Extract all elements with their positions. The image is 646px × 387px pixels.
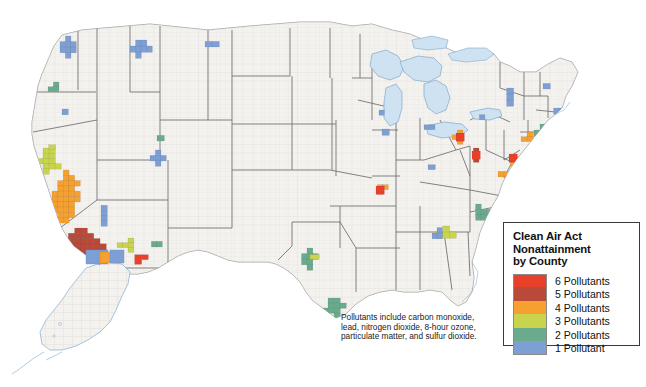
county-cell: [155, 150, 161, 156]
county-cell: [69, 175, 75, 181]
map-caption: Pollutants include carbon monoxide, lead…: [341, 313, 506, 342]
county-cell: [136, 40, 142, 46]
legend-row: 6 Pollutants: [513, 274, 639, 288]
county-cell: [443, 232, 450, 238]
county-cell: [147, 46, 153, 52]
county-cell: [65, 36, 71, 42]
county-cell: [62, 244, 69, 250]
county-cell: [68, 244, 75, 250]
region-cluster: [509, 154, 517, 162]
county-cell: [101, 221, 107, 227]
legend-row: 4 Pollutants: [513, 301, 639, 315]
region-cluster: [472, 151, 480, 159]
county-cell: [69, 207, 75, 213]
region-cluster: [554, 108, 565, 120]
county-cell: [68, 233, 75, 239]
county-cell: [429, 125, 435, 130]
county-cell: [141, 40, 147, 46]
county-cell: [93, 244, 100, 250]
county-cell: [63, 202, 69, 208]
county-cell: [128, 243, 134, 248]
county-cell: [302, 254, 308, 260]
region-cluster: [101, 205, 107, 226]
county-cell: [49, 158, 55, 164]
legend-label: 5 Pollutants: [555, 288, 610, 300]
legend-row: 3 Pollutants: [513, 314, 639, 328]
county-cell: [135, 259, 142, 264]
county-cell: [322, 308, 328, 313]
county-cell: [69, 186, 75, 192]
legend-row: 5 Pollutants: [513, 287, 639, 301]
legend-label: 4 Pollutants: [555, 302, 610, 314]
legend-swatch-1: [513, 341, 547, 355]
county-cell: [521, 137, 527, 142]
county-cell: [554, 108, 560, 114]
county-cell: [340, 303, 346, 308]
county-cell: [75, 260, 82, 266]
county-cell: [43, 158, 49, 164]
region-cluster: [205, 41, 219, 47]
county-cell: [334, 298, 340, 303]
county-cell: [136, 52, 142, 58]
county-cell: [75, 233, 82, 239]
county-cell: [65, 53, 71, 59]
county-cell: [456, 133, 464, 141]
county-cell: [476, 215, 482, 221]
county-cell: [58, 191, 64, 197]
county-cell: [328, 303, 334, 308]
county-cell: [527, 132, 533, 137]
legend-panel: Clean Air Act Nonattainment by County 6 …: [503, 222, 640, 346]
county-cell: [123, 243, 129, 248]
region-cluster: [376, 186, 384, 194]
county-cell: [75, 249, 82, 255]
county-cell: [58, 212, 64, 218]
county-cell: [63, 191, 69, 197]
county-cell: [379, 110, 384, 115]
region-cluster: [536, 138, 553, 146]
county-cell: [540, 130, 546, 136]
county-cell: [74, 181, 80, 187]
county-cell: [328, 298, 334, 303]
county-cell: [157, 241, 163, 247]
county-cell: [205, 41, 212, 47]
alaska-island-2: [53, 335, 55, 337]
county-cell: [87, 244, 94, 250]
legend-label: 6 Pollutants: [555, 275, 610, 287]
county-cell: [212, 41, 219, 47]
legend-label: 3 Pollutants: [555, 315, 610, 327]
county-cell: [443, 226, 450, 232]
county-cell: [60, 42, 66, 48]
county-cell: [69, 181, 75, 187]
county-cell: [128, 247, 134, 252]
county-cell: [68, 260, 75, 266]
legend-row: 2 Pollutants: [513, 328, 639, 342]
legend-swatch-6: [513, 274, 547, 288]
county-cell: [498, 171, 504, 177]
county-cell: [472, 151, 480, 159]
county-cell: [476, 209, 482, 215]
county-cell: [157, 135, 164, 141]
county-cell: [101, 216, 107, 222]
county-cell: [43, 148, 49, 154]
county-cell: [155, 155, 161, 161]
county-cell: [480, 263, 486, 268]
county-cell: [117, 243, 123, 248]
region-cluster: [157, 135, 164, 141]
county-cell: [63, 212, 69, 218]
county-cell: [58, 181, 64, 187]
county-cell: [334, 308, 340, 313]
county-cell: [48, 87, 54, 92]
county-cell: [81, 233, 88, 239]
region-cluster: [310, 255, 319, 260]
county-cell: [428, 165, 435, 170]
county-cell: [58, 202, 64, 208]
county-cell: [150, 155, 156, 161]
county-cell: [43, 164, 49, 170]
county-cell: [74, 264, 80, 270]
county-cell: [62, 109, 68, 115]
county-cell: [71, 47, 77, 53]
legend-swatch-4: [513, 301, 547, 315]
county-cell: [55, 164, 61, 170]
county-cell: [141, 46, 147, 52]
county-cell: [74, 191, 80, 197]
